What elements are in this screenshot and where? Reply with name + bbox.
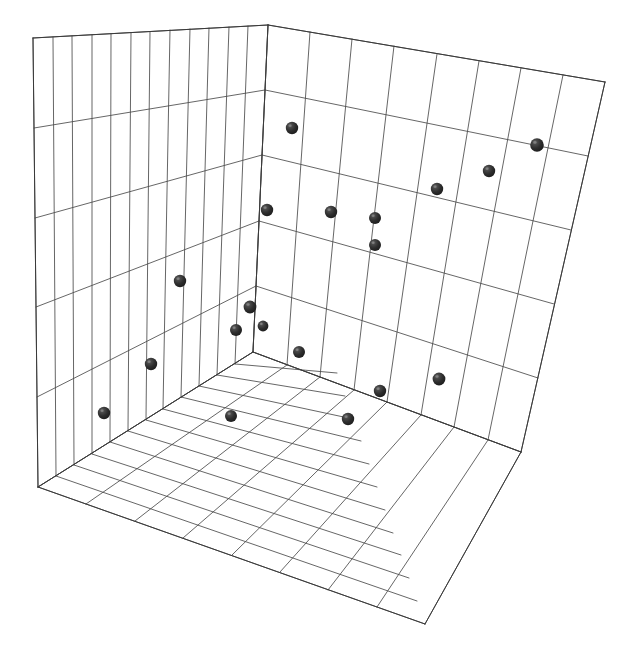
scatter-point-highlight [372, 215, 375, 217]
scatter-point-sphere [433, 373, 446, 386]
scatter-point-highlight [533, 141, 537, 144]
scatter-point-sphere [293, 346, 305, 358]
scatter-point [244, 301, 257, 314]
scatter-point [431, 183, 443, 195]
scatter-point [374, 385, 386, 397]
scatter-point-highlight [228, 413, 231, 415]
scatter-point [258, 321, 269, 332]
scatter-point [225, 410, 237, 422]
scatter-point-sphere [369, 212, 381, 224]
scatter-point-sphere [174, 275, 186, 287]
scatter-point [230, 324, 242, 336]
scatter-point-sphere [261, 204, 273, 216]
scatter-point-sphere [325, 206, 337, 218]
scatter-point-sphere [369, 239, 381, 251]
scatter-point-sphere [244, 301, 257, 314]
scatter3d-plot-root [0, 0, 628, 671]
scatter3d-canvas [0, 0, 628, 671]
scatter-point-highlight [288, 124, 291, 126]
scatter-point [145, 358, 157, 370]
scatter-point-highlight [376, 387, 379, 389]
scatter-point-highlight [296, 349, 299, 351]
scatter-point [369, 239, 381, 251]
scatter-point [286, 122, 298, 134]
scatter-point-highlight [433, 185, 436, 187]
scatter-point-sphere [286, 122, 298, 134]
scatter-point-highlight [344, 415, 347, 417]
scatter-point [325, 206, 337, 218]
plot-panes [33, 25, 605, 624]
scatter-point [433, 373, 446, 386]
scatter-point-sphere [483, 165, 495, 177]
scatter-point-sphere [225, 410, 237, 422]
scatter-point-sphere [530, 138, 544, 152]
scatter-point-highlight [327, 208, 330, 210]
scatter-point-highlight [147, 360, 150, 362]
scatter-point [261, 204, 273, 216]
scatter-point [530, 138, 544, 152]
scatter-point-sphere [145, 358, 157, 370]
scatter-point-sphere [342, 413, 354, 425]
scatter-point [483, 165, 495, 177]
scatter-point-sphere [374, 385, 386, 397]
scatter-point [174, 275, 186, 287]
scatter-point-highlight [435, 375, 438, 378]
scatter-point [369, 212, 381, 224]
scatter-point-highlight [263, 206, 266, 208]
scatter-point [293, 346, 305, 358]
scatter-point-sphere [230, 324, 242, 336]
scatter-point-sphere [431, 183, 443, 195]
scatter-point [342, 413, 354, 425]
scatter-point-highlight [100, 409, 103, 411]
scatter-point-highlight [246, 303, 249, 306]
scatter-point [98, 407, 110, 419]
scatter-point-highlight [485, 167, 488, 169]
scatter-point-sphere [258, 321, 269, 332]
scatter-point-sphere [98, 407, 110, 419]
scatter-point-highlight [260, 323, 263, 325]
scatter-point-highlight [372, 242, 375, 244]
scatter-point-highlight [233, 327, 236, 329]
scatter-point-highlight [176, 277, 179, 279]
